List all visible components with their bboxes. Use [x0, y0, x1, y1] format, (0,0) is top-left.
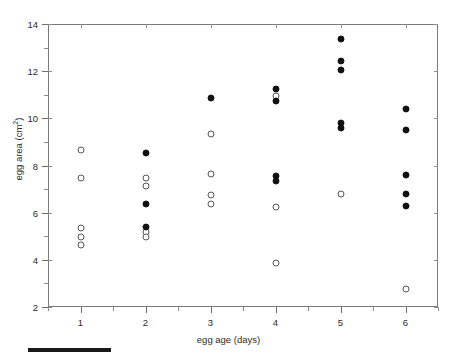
x-tick-top	[81, 24, 82, 28]
data-point-open	[272, 203, 279, 210]
data-point-open	[272, 260, 279, 267]
y-tick-right	[434, 260, 438, 261]
data-point-filled	[402, 202, 409, 209]
data-point-filled	[337, 36, 344, 43]
data-point-open	[402, 286, 409, 293]
x-tick-label: 6	[403, 317, 408, 328]
y-tick-right	[434, 24, 438, 25]
data-point-open	[207, 170, 214, 177]
y-tick-inner	[48, 213, 52, 214]
y-tick-inner	[48, 24, 52, 25]
data-point-open	[337, 190, 344, 197]
y-axis-title-exponent: 2	[12, 121, 19, 125]
data-point-open	[77, 241, 84, 248]
y-tick-right	[434, 118, 438, 119]
data-point-filled	[272, 177, 279, 184]
data-point-open	[207, 130, 214, 137]
x-tick-minor	[373, 307, 374, 311]
data-point-open	[142, 182, 149, 189]
data-point-open	[77, 224, 84, 231]
y-axis-title-close: )	[13, 118, 24, 121]
x-tick-label: 1	[78, 317, 83, 328]
x-tick-major	[81, 307, 82, 313]
y-tick-minor	[44, 189, 48, 190]
data-point-filled	[142, 223, 149, 230]
data-point-filled	[337, 124, 344, 131]
x-tick-top	[211, 24, 212, 28]
scatter-plot-figure: 123456 2468101214 egg age (days) egg are…	[0, 0, 457, 359]
data-point-open	[207, 201, 214, 208]
y-tick-inner	[48, 71, 52, 72]
y-tick-minor	[44, 236, 48, 237]
x-tick-top	[341, 24, 342, 28]
data-point-filled	[142, 149, 149, 156]
data-point-filled	[272, 97, 279, 104]
x-tick-label: 5	[338, 317, 343, 328]
y-tick-right	[434, 166, 438, 167]
y-tick-label: 4	[0, 254, 38, 265]
data-point-filled	[272, 85, 279, 92]
x-tick-top	[146, 24, 147, 28]
y-tick-minor	[44, 48, 48, 49]
y-tick-minor	[44, 283, 48, 284]
y-axis-title: egg area (cm2)	[12, 69, 24, 229]
y-tick-inner	[48, 260, 52, 261]
data-point-open	[142, 175, 149, 182]
data-point-filled	[402, 190, 409, 197]
scale-bar	[28, 348, 111, 352]
x-axis-title: egg age (days)	[0, 334, 457, 345]
plot-area	[48, 24, 438, 307]
data-point-filled	[142, 201, 149, 208]
x-tick-major	[146, 307, 147, 313]
x-tick-label: 2	[143, 317, 148, 328]
y-tick-label: 14	[0, 19, 38, 30]
data-point-open	[77, 147, 84, 154]
x-tick-top	[276, 24, 277, 28]
data-point-filled	[337, 57, 344, 64]
data-point-filled	[402, 105, 409, 112]
x-tick-minor	[308, 307, 309, 311]
y-tick-minor	[44, 95, 48, 96]
y-tick-minor	[44, 142, 48, 143]
y-tick-inner	[48, 118, 52, 119]
y-axis-title-main: egg area (cm	[13, 125, 24, 181]
y-tick-right	[434, 71, 438, 72]
data-point-filled	[402, 171, 409, 178]
data-point-open	[77, 175, 84, 182]
x-tick-major	[211, 307, 212, 313]
data-point-filled	[402, 127, 409, 134]
x-tick-top	[406, 24, 407, 28]
x-tick-label: 3	[208, 317, 213, 328]
x-tick-label: 4	[273, 317, 278, 328]
y-tick-right	[434, 213, 438, 214]
x-tick-major	[406, 307, 407, 313]
y-tick-label: 2	[0, 302, 38, 313]
y-tick-inner	[48, 166, 52, 167]
x-tick-minor	[113, 307, 114, 311]
x-tick-major	[341, 307, 342, 313]
x-tick-major	[276, 307, 277, 313]
data-point-open	[77, 234, 84, 241]
data-point-filled	[207, 95, 214, 102]
x-tick-minor	[438, 307, 439, 311]
data-point-open	[142, 234, 149, 241]
x-tick-minor	[178, 307, 179, 311]
data-point-open	[207, 191, 214, 198]
x-tick-minor	[48, 307, 49, 311]
x-tick-minor	[243, 307, 244, 311]
data-point-filled	[337, 66, 344, 73]
